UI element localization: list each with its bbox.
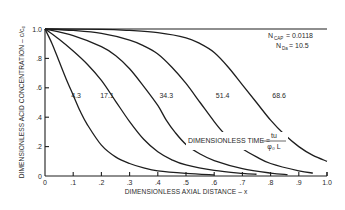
curve-time-4-3: [45, 29, 214, 175]
curve-time-34-3: [45, 29, 288, 175]
y-tick-label: .6: [36, 84, 42, 91]
n-da-annotation: N Da = 10.5: [276, 42, 309, 51]
curve-label: 51.4: [216, 92, 230, 99]
n-cap-value: = 0.0118: [286, 32, 313, 39]
time-numerator: tu: [271, 132, 277, 139]
curve-label: 4.3: [71, 92, 81, 99]
n-cap-annotation: N CAP = 0.0118: [268, 32, 313, 41]
n-da-symbol: N: [276, 42, 281, 49]
x-axis-title: DIMENSIONLESS AXIAL DISTANCE – x: [125, 188, 248, 195]
axes-group: [45, 29, 327, 176]
x-tick-label: .4: [155, 179, 161, 186]
n-cap-subscript: CAP: [274, 36, 283, 41]
x-tick-label: .2: [98, 179, 104, 186]
x-tick-label: .1: [70, 179, 76, 186]
y-tick-label: .4: [36, 114, 42, 121]
x-tick-label: .6: [211, 179, 217, 186]
x-tick-label: .5: [183, 179, 189, 186]
y-axis-title: DIMENSIONLESS ACID CONCENTRATION – c/c₀: [18, 25, 25, 178]
y-tick-label: 0: [38, 173, 42, 180]
curve-label: 34.3: [159, 92, 173, 99]
y-tick-label: .2: [36, 143, 42, 150]
chart: 0.1.2.3.4.5.6.7.8.91.00.2.4.6.81.0 DIMEN…: [0, 0, 345, 210]
curve-label: 68.6: [272, 92, 286, 99]
x-tick-label: .3: [127, 179, 133, 186]
y-tick-label: 1.0: [32, 26, 42, 33]
y-tick-label: .8: [36, 55, 42, 62]
x-tick-label: 0: [43, 179, 47, 186]
curve-label: 17.1: [100, 92, 114, 99]
n-cap-symbol: N: [268, 32, 273, 39]
time-label: DIMENSIONLESS TIME =: [188, 137, 270, 144]
x-tick-label: .8: [268, 179, 274, 186]
n-da-value: = 10.5: [289, 42, 309, 49]
curve-time-17-1: [45, 29, 257, 174]
time-denominator: φ₀ L: [267, 143, 280, 151]
x-tick-label: .9: [296, 179, 302, 186]
n-da-subscript: Da: [282, 46, 288, 51]
dimensionless-time-annotation: DIMENSIONLESS TIME = tu φ₀ L: [186, 132, 288, 151]
curve-time-51-4: [45, 29, 313, 173]
x-tick-label: .7: [239, 179, 245, 186]
x-tick-label: 1.0: [322, 179, 332, 186]
